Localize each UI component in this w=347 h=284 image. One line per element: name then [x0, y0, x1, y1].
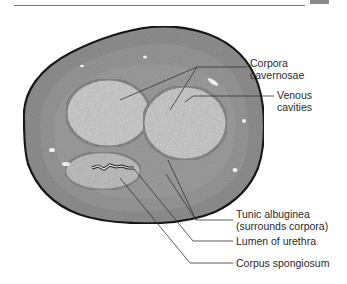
label-corpus-spongiosum: Corpus spongiosum — [236, 257, 329, 269]
label-line: (surrounds corpora) — [236, 220, 328, 232]
label-line: cavities — [277, 101, 312, 113]
label-tunic-albuginea: Tunic albuginea (surrounds corpora) — [236, 208, 328, 232]
corpus-spongiosum-region — [65, 152, 141, 190]
label-line: Venous — [277, 89, 312, 101]
label-lumen-of-urethra: Lumen of urethra — [236, 235, 316, 247]
left-corpus-cavernosum — [66, 79, 150, 147]
label-corpora-cavernosae: Corpora cavernosae — [250, 57, 304, 81]
label-line: Lumen of urethra — [236, 235, 316, 247]
label-line: Corpora — [250, 57, 304, 69]
label-line: Tunic albuginea — [236, 208, 328, 220]
label-venous-cavities: Venous cavities — [277, 89, 312, 113]
label-line: cavernosae — [250, 69, 304, 81]
right-corpus-cavernosum — [143, 86, 227, 160]
label-line: Corpus spongiosum — [236, 257, 329, 269]
